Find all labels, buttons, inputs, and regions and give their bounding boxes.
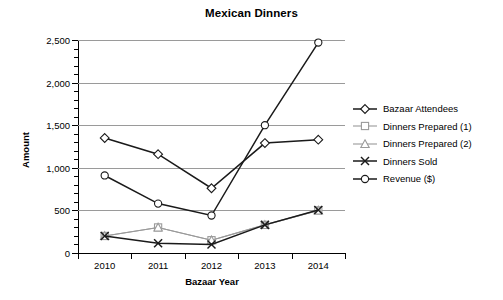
data-point-circle — [155, 200, 162, 207]
legend-label: Dinners Prepared (1) — [383, 122, 472, 132]
y-tick-label: 2,000 — [46, 77, 70, 88]
series-line — [105, 138, 319, 188]
legend-marker-circle-icon — [352, 172, 378, 186]
legend-item[interactable]: Bazaar Attendees — [352, 100, 472, 118]
legend-marker-diamond-icon — [352, 102, 378, 116]
series-layer — [78, 40, 345, 254]
legend-marker-triangle-icon — [352, 137, 378, 151]
data-point-circle — [208, 212, 215, 219]
legend-item[interactable]: Revenue ($) — [352, 170, 472, 188]
y-tick-label: 500 — [54, 205, 70, 216]
y-tick-label: 1,500 — [46, 120, 70, 131]
legend-label: Bazaar Attendees — [383, 104, 458, 114]
data-point-circle — [315, 39, 322, 46]
legend-item[interactable]: Dinners Sold — [352, 153, 472, 171]
x-tick — [345, 253, 346, 259]
legend-marker-square-icon — [352, 119, 378, 133]
x-tick-label: 2012 — [182, 260, 242, 271]
data-point-diamond — [361, 104, 370, 113]
chart-title: Mexican Dinners — [0, 7, 503, 19]
chart-container: Mexican Dinners Amount 05001,0001,5002,0… — [0, 0, 503, 300]
y-tick-label: 1,000 — [46, 162, 70, 173]
x-tick-label: 2014 — [288, 260, 348, 271]
legend-marker-x-icon — [352, 154, 378, 168]
chart-legend: Bazaar AttendeesDinners Prepared (1)Dinn… — [352, 100, 472, 188]
data-point-square — [361, 123, 368, 130]
y-axis-title: Amount — [20, 110, 31, 190]
data-point-circle — [261, 122, 268, 129]
data-point-circle — [361, 175, 368, 182]
x-tick-label: 2013 — [235, 260, 295, 271]
data-point-diamond — [154, 150, 163, 159]
legend-label: Dinners Prepared (2) — [383, 139, 472, 149]
y-tick-label: 0 — [65, 248, 70, 259]
data-point-diamond — [314, 135, 323, 144]
data-point-diamond — [100, 134, 109, 143]
x-tick-label: 2011 — [128, 260, 188, 271]
y-tick-label: 2,500 — [46, 35, 70, 46]
legend-label: Dinners Sold — [383, 157, 437, 167]
x-axis-title: Bazaar Year — [78, 276, 346, 287]
legend-item[interactable]: Dinners Prepared (2) — [352, 135, 472, 153]
x-tick-label: 2010 — [75, 260, 135, 271]
legend-label: Revenue ($) — [383, 174, 435, 184]
legend-item[interactable]: Dinners Prepared (1) — [352, 118, 472, 136]
plot-area: 05001,0001,5002,0002,500 201020112012201… — [78, 40, 345, 254]
data-point-circle — [101, 172, 108, 179]
